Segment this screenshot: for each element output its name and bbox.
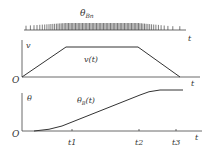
theta-curve-label: θB(t)	[77, 96, 95, 106]
t2-label: t2	[135, 138, 143, 147]
t1-label: t1	[68, 138, 76, 147]
theta-curve	[34, 90, 183, 131]
theta-origin-label: O	[12, 129, 20, 139]
velocity-curve-label: v(t)	[84, 55, 98, 64]
velocity-panel: v O t v(t)	[12, 40, 200, 88]
pulse-panel: θBn t	[24, 8, 192, 43]
pulse-label: θBn	[80, 8, 94, 19]
theta-t-label: t	[195, 133, 199, 142]
pulse-t-label: t	[188, 34, 192, 43]
v-t-label: t	[191, 79, 195, 88]
theta-axis-label: θ	[27, 94, 32, 103]
angle-panel: θ O t θB(t) t1 t2 t3	[12, 90, 202, 147]
v-axis-label: v	[26, 41, 31, 50]
velocity-curve	[22, 47, 180, 77]
t3-label: t3	[172, 138, 180, 147]
motion-profile-diagram: θBn t v O t v(t) θ O t θB(t) t1 t2 t3	[0, 0, 212, 167]
v-origin-label: O	[12, 75, 20, 85]
pulse-train	[26, 23, 180, 30]
